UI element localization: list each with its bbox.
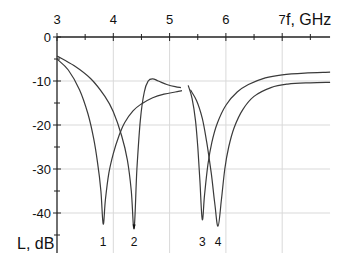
resonance-label-2: 2 bbox=[131, 235, 138, 249]
resonance-label-4: 4 bbox=[215, 235, 222, 249]
curve-1-line bbox=[188, 72, 330, 220]
x-tick-label: 5 bbox=[166, 12, 173, 27]
x-tick-label: 6 bbox=[222, 12, 229, 27]
x-tick-label: 3 bbox=[53, 12, 60, 27]
resonance-chart: 34567 0-10-20-30-40 1234 f, GHz L, dB bbox=[0, 0, 353, 270]
grid-lines bbox=[57, 37, 330, 253]
y-tick-label: -10 bbox=[32, 74, 51, 89]
axes: 34567 0-10-20-30-40 bbox=[32, 12, 330, 253]
resonance-markers: 1234 bbox=[100, 224, 222, 249]
curves bbox=[57, 56, 330, 229]
curve-2-line bbox=[190, 82, 330, 226]
x-tick-label: 4 bbox=[110, 12, 117, 27]
y-tick-label: -20 bbox=[32, 118, 51, 133]
y-tick-label: -40 bbox=[32, 206, 51, 221]
y-tick-label: -30 bbox=[32, 162, 51, 177]
resonance-label-1: 1 bbox=[100, 235, 107, 249]
x-axis-title: f, GHz bbox=[286, 11, 331, 28]
resonance-label-3: 3 bbox=[199, 235, 206, 249]
y-tick-label: 0 bbox=[44, 30, 51, 45]
x-tick-label: 7 bbox=[279, 12, 286, 27]
y-axis-title: L, dB bbox=[17, 235, 54, 252]
